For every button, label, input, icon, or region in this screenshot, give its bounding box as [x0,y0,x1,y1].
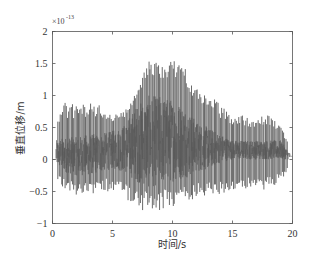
x-tick-label: 15 [228,228,238,239]
x-tick-label: 20 [288,228,298,239]
chart: 05101520 −1−0.500.511.52 ×10 -13 时间/s 垂直… [0,0,312,267]
x-tick-label: 5 [110,228,115,239]
x-axis-label: 时间/s [158,238,187,250]
x-tick-label: 0 [50,228,55,239]
y-tick-label: −0.5 [29,186,47,197]
y-tick-label: 1.5 [35,58,48,69]
y-axis-label: 垂直位移/m [14,101,26,154]
y-exponent-power: -13 [66,14,74,20]
y-exponent-base: ×10 [52,17,65,26]
y-tick-label: −1 [37,218,48,229]
y-tick-label: 2 [43,26,48,37]
y-tick-label: 0 [43,154,48,165]
y-tick-label: 0.5 [35,122,48,133]
x-tick-label: 10 [168,228,178,239]
y-tick-label: 1 [43,90,48,101]
